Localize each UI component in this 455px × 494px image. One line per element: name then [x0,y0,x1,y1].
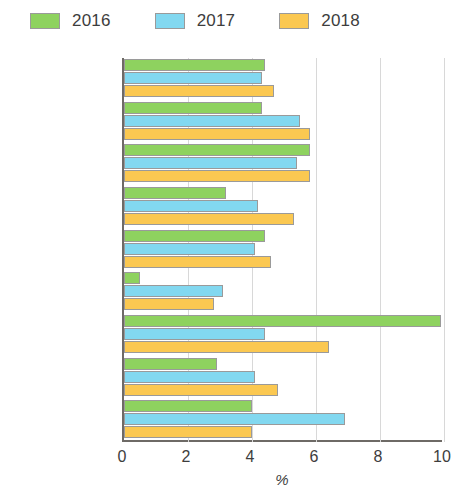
bar-2018-bangladesh[interactable] [124,170,310,182]
bar-2017-maldives[interactable] [124,285,223,297]
bar-2018-maldives[interactable] [124,298,214,310]
bar-2018-south-asia[interactable] [124,85,274,97]
bar-2017-south-asia[interactable] [124,72,262,84]
bar-2016-afghanistan[interactable] [124,102,262,114]
x-tick-label: 0 [102,448,142,466]
bar-group [124,186,442,229]
bar-2016-india[interactable] [124,230,265,242]
bar-group [124,58,442,101]
x-tick-label: 6 [294,448,334,466]
bar-2016-bangladesh[interactable] [124,144,310,156]
bar-group [124,271,442,314]
bar-2018-sri-lanka[interactable] [124,426,252,438]
bar-2016-sri-lanka[interactable] [124,400,252,412]
bar-group [124,314,442,357]
bar-2017-pakistan[interactable] [124,371,255,383]
bar-2017-afghanistan[interactable] [124,115,300,127]
gridline [444,58,445,442]
bar-2016-bhutan[interactable] [124,187,226,199]
bar-2018-india[interactable] [124,256,271,268]
bar-2018-nepal[interactable] [124,341,329,353]
bar-2018-pakistan[interactable] [124,384,278,396]
bar-group [124,399,442,442]
bar-group [124,143,442,186]
bar-2016-south-asia[interactable] [124,59,265,71]
bar-group [124,101,442,144]
x-tick-label: 8 [358,448,398,466]
bar-2017-sri-lanka[interactable] [124,413,345,425]
bar-2017-bangladesh[interactable] [124,157,297,169]
bar-group [124,229,442,272]
bar-2016-pakistan[interactable] [124,358,217,370]
bar-2018-bhutan[interactable] [124,213,294,225]
x-tick-label: 10 [422,448,455,466]
bar-2016-nepal[interactable] [124,315,441,327]
x-tick-label: 2 [166,448,206,466]
bar-2017-india[interactable] [124,243,255,255]
bar-2016-maldives[interactable] [124,272,140,284]
x-tick-label: 4 [230,448,270,466]
bar-2017-bhutan[interactable] [124,200,258,212]
bar-2017-nepal[interactable] [124,328,265,340]
bar-group [124,357,442,400]
plot-region [122,58,442,442]
bar-2018-afghanistan[interactable] [124,128,310,140]
x-axis-title: % [122,471,442,488]
